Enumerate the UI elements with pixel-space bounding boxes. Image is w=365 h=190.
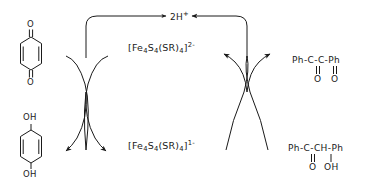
right-crossed-arrows [224, 54, 270, 150]
proton-count-text: 2H [170, 12, 183, 22]
benzoin-bonds [312, 154, 332, 162]
left-crossed-arrows [66, 56, 108, 151]
proton-loop-right-branch [192, 16, 247, 58]
benzil-oxygen-1: O [314, 75, 321, 84]
benzoquinone-oxygen-bottom: O [27, 78, 34, 87]
fe-symbol: Fe [132, 140, 143, 151]
benzoin-oxygen: O [309, 163, 316, 172]
benzil-backbone-text: Ph-C-C-Ph [292, 56, 340, 65]
fe-symbol: Fe [132, 42, 143, 53]
proton-label: 2H+ [170, 11, 189, 22]
oxidized-cluster-formula: [Fe4S4(SR)4]2- [128, 42, 195, 55]
reduced-cluster-formula: [Fe4S4(SR)4]1- [128, 140, 195, 153]
thiolate-ligand: (SR) [158, 140, 179, 151]
benzoin-hydroxyl: OH [324, 163, 339, 172]
hydroquinone-structure [21, 124, 42, 169]
benzoin-backbone-text: Ph-C-CH-Ph [288, 144, 343, 153]
charge-superscript: 2- [188, 41, 195, 49]
proton-charge-superscript: + [183, 10, 189, 18]
thiolate-ligand: (SR) [158, 42, 179, 53]
benzoquinone-structure [21, 30, 42, 78]
hydroquinone-hydroxyl-top: OH [23, 113, 36, 122]
charge-superscript: 1- [188, 139, 195, 147]
benzil-carbonyl-bonds [317, 66, 337, 74]
benzil-oxygen-2: O [331, 75, 338, 84]
benzoquinone-oxygen-top: O [27, 20, 34, 29]
hydroquinone-hydroxyl-bottom: OH [23, 170, 36, 179]
